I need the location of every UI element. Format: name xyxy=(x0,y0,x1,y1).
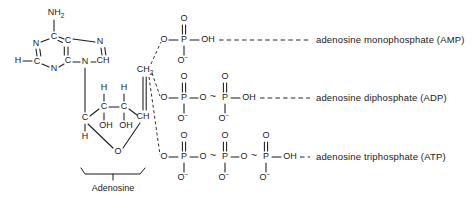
adenosine-bracket-label: Adenosine xyxy=(92,183,135,193)
atp-bridge-oxygen-2: O xyxy=(199,151,206,161)
adp-row-group: O P O O− O ~ P O O− OH adenosine diphosp… xyxy=(160,71,446,123)
adenine-n7-atom: N xyxy=(97,36,104,46)
adenine-n3-atom: N xyxy=(51,63,58,73)
adenine-n9-atom: N xyxy=(82,56,89,66)
bond-c5-n7 xyxy=(73,39,95,42)
ribose-c1-atom: C xyxy=(82,112,89,122)
bond-n1-c2-b xyxy=(40,49,41,56)
atp-bridge-oxygen: O xyxy=(160,151,167,161)
bond-c5-c6-a xyxy=(59,37,64,39)
ribose-ring-oxygen: O xyxy=(114,146,121,156)
adp-terminal-hydroxyl: OH xyxy=(242,92,256,102)
adp-oxide-anion-2: O− xyxy=(219,111,230,123)
adenine-c8-atom: CH xyxy=(97,55,110,65)
link-ch2-amp xyxy=(151,42,161,64)
adenine-c6-atom: C xyxy=(51,31,58,41)
bond-n7-c8-b xyxy=(105,48,106,55)
atp-terminal-hydroxyl: OH xyxy=(283,151,297,161)
ribose-c3-hydrogen: H xyxy=(121,82,128,92)
adenine-h2-atom: H xyxy=(15,55,22,65)
adp-bridge-oxygen: O xyxy=(160,92,167,102)
structure-svg: NH2 C N C N C C H N CH N xyxy=(0,0,472,202)
link-ch2-adp xyxy=(152,73,160,96)
adenine-base-group: NH2 C N C N C C H N CH N xyxy=(15,7,110,73)
ribose-sugar-group: C H C H OH C H OH CH O CH2 xyxy=(82,64,154,156)
ch2-to-phosphate-links xyxy=(149,42,161,155)
atp-high-energy-bond-1: ~ xyxy=(210,149,216,161)
adp-oxide-anion-1: O− xyxy=(178,111,189,123)
adenosine-bracket-group: Adenosine xyxy=(81,168,145,193)
amp-label: adenosine monophosphate (AMP) xyxy=(316,34,465,45)
atp-oxo-oxygen-2: O xyxy=(221,130,228,140)
amp-bridge-oxygen: O xyxy=(160,34,167,44)
amp-terminal-hydroxyl: OH xyxy=(201,34,215,44)
adenosine-phosphates-figure: NH2 C N C N C C H N CH N xyxy=(0,0,472,202)
atp-oxo-oxygen-1: O xyxy=(180,130,187,140)
bond-n7-c8-a xyxy=(101,48,102,55)
adenine-n1-atom: N xyxy=(33,38,40,48)
ribose-c5-methylene: CH2 xyxy=(137,64,154,75)
adenine-c2-atom: C xyxy=(34,56,41,66)
atp-phosphorus-2: P xyxy=(222,151,228,161)
atp-label: adenosine triphosphate (ATP) xyxy=(316,151,446,162)
ribose-c2-hydrogen: H xyxy=(101,82,108,92)
ribose-c2-atom: C xyxy=(101,101,108,111)
ribose-c1-hydrogen: H xyxy=(82,131,89,141)
amine-nitrogen-atom: NH2 xyxy=(48,7,65,18)
amp-row-group: O P O O− OH adenosine monophosphate (AMP… xyxy=(160,13,464,65)
atp-bridge-oxygen-3: O xyxy=(240,151,247,161)
bond-c5-c6-b xyxy=(58,41,63,43)
atp-phosphorus-3: P xyxy=(263,151,269,161)
bond-n3-c4 xyxy=(59,64,64,67)
amp-oxide-anion-1: O− xyxy=(178,53,189,65)
adp-bridge-oxygen-2: O xyxy=(199,92,206,102)
amp-phosphorus-1: P xyxy=(181,34,187,44)
atp-oxide-anion-3: O− xyxy=(260,170,271,182)
adp-oxo-oxygen-1: O xyxy=(180,71,187,81)
adp-label: adenosine diphosphate (ADP) xyxy=(316,92,447,103)
adp-phosphorus-2: P xyxy=(222,92,228,102)
ribose-c3-atom: C xyxy=(121,101,128,111)
adp-oxo-oxygen-2: O xyxy=(221,71,228,81)
bond-c6-n1 xyxy=(41,39,49,42)
adenine-c5-atom: C xyxy=(65,35,72,45)
adenine-c4-atom: C xyxy=(65,55,72,65)
ribose-c2-hydroxyl: OH xyxy=(99,120,113,130)
atp-oxo-oxygen-3: O xyxy=(262,130,269,140)
atp-high-energy-bond-2: ~ xyxy=(251,149,257,161)
adp-phosphorus-1: P xyxy=(181,92,187,102)
bond-c1-c2 xyxy=(90,109,99,116)
ribose-c3-hydroxyl: OH xyxy=(119,120,133,130)
bond-c2-n3 xyxy=(42,64,49,67)
amp-oxo-oxygen-1: O xyxy=(180,13,187,23)
ribose-c4-atom: CH xyxy=(137,111,150,121)
adp-high-energy-bond-1: ~ xyxy=(210,90,216,102)
adenosine-brace xyxy=(81,168,145,174)
atp-oxide-anion-1: O− xyxy=(178,170,189,182)
bond-n1-c2-a xyxy=(36,49,37,56)
atp-oxide-anion-2: O− xyxy=(219,170,230,182)
link-ch2-atp xyxy=(149,77,160,155)
atp-row-group: O P O O− O ~ P O O− O ~ P O xyxy=(160,130,445,182)
atp-phosphorus-1: P xyxy=(181,151,187,161)
